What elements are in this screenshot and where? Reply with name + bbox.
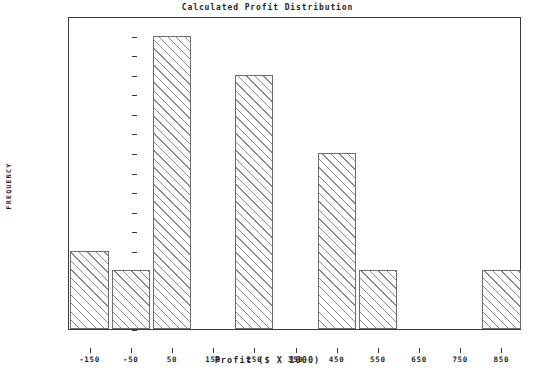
y-tick-mark — [132, 232, 137, 233]
x-axis-title: Profit ($ X 1000) — [0, 355, 535, 365]
x-tick-mark — [172, 348, 173, 353]
x-tick-mark — [254, 348, 255, 353]
x-tick-mark — [213, 348, 214, 353]
y-tick-mark — [132, 115, 137, 116]
bar — [359, 270, 397, 329]
bar — [482, 270, 520, 329]
bar — [70, 251, 108, 329]
x-tick-mark — [501, 348, 502, 353]
x-tick-mark — [90, 348, 91, 353]
y-axis-title-text: FREQUENCY — [5, 162, 13, 209]
y-tick-mark — [132, 76, 137, 77]
y-tick-mark — [132, 37, 137, 38]
y-tick-mark — [132, 134, 137, 135]
x-tick-mark — [460, 348, 461, 353]
y-tick-mark — [132, 56, 137, 57]
plot-area: 0.320.300.280.260.240.220.200.180.160.14… — [68, 17, 521, 330]
chart-figure: Calculated Profit Distribution FREQUENCY… — [0, 0, 535, 371]
y-tick-mark — [132, 252, 137, 253]
x-tick-mark — [419, 348, 420, 353]
y-tick-mark — [132, 213, 137, 214]
bar — [318, 153, 356, 329]
bar — [235, 75, 273, 329]
y-axis-title: FREQUENCY — [2, 0, 16, 371]
y-tick-mark — [132, 193, 137, 194]
x-tick-mark — [296, 348, 297, 353]
x-tick-mark — [131, 348, 132, 353]
chart-title: Calculated Profit Distribution — [0, 3, 535, 12]
y-tick-mark — [132, 154, 137, 155]
x-tick-mark — [378, 348, 379, 353]
y-tick-mark — [132, 95, 137, 96]
y-tick-mark — [132, 17, 137, 18]
y-tick-mark — [132, 174, 137, 175]
y-tick-mark — [132, 330, 137, 331]
bar — [112, 270, 150, 329]
bar — [153, 36, 191, 329]
x-tick-mark — [337, 348, 338, 353]
